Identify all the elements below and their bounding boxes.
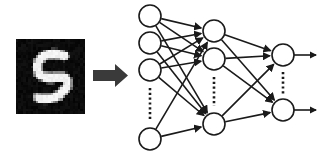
- neuron-node: [203, 20, 225, 42]
- neuron-node: [272, 44, 294, 66]
- neuron-node: [139, 128, 161, 150]
- neuron-node: [203, 48, 225, 70]
- neuron-node: [272, 99, 294, 121]
- neuron-node: [203, 113, 225, 135]
- network-nodes: [139, 5, 294, 150]
- neuron-node: [139, 59, 161, 81]
- network-graphic: [0, 0, 324, 159]
- neural-network-figure: Handwritten digit classified by a feed-f…: [0, 0, 324, 159]
- output-arrows: [294, 55, 316, 110]
- neuron-node: [139, 5, 161, 27]
- network-edge: [161, 33, 201, 40]
- network-edge: [225, 35, 271, 51]
- network-edge: [225, 56, 269, 59]
- network-edge: [223, 66, 272, 102]
- network-edge: [161, 127, 201, 136]
- network-edge: [225, 113, 270, 122]
- network-edge: [156, 42, 207, 129]
- block-arrow-shape: [93, 64, 128, 87]
- neuron-node: [139, 32, 161, 54]
- block-arrow: [93, 64, 128, 87]
